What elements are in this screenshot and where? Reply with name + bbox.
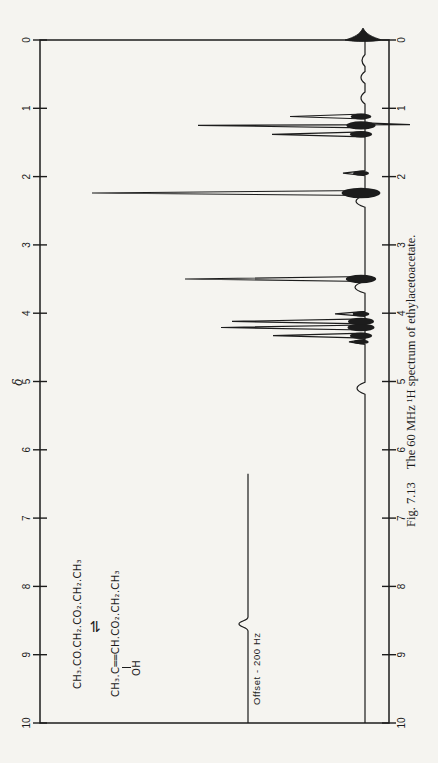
figure-caption: Fig. 7.13The 60 MHz ¹H spectrum of ethyl…	[404, 235, 419, 527]
nmr-spectrum-plot: 001122334455667788991010	[0, 0, 438, 763]
peak-base-blob	[351, 114, 372, 120]
figure-caption-number: Fig. 7.13	[404, 482, 418, 527]
page-background: 001122334455667788991010 δ CH₃.CO.CH₂.CO…	[0, 0, 438, 763]
delta-axis-symbol: δ	[11, 373, 25, 391]
top-axis-tick-label: 3	[21, 242, 32, 248]
top-axis-tick-label: 0	[21, 37, 32, 43]
peak-base-blob	[348, 318, 374, 325]
bottom-axis-tick-label: 9	[396, 651, 407, 657]
enol-formula-left: CH₃.C	[110, 667, 121, 697]
enol-oh-bond	[122, 667, 131, 668]
offset-annotation: Offset - 200 Hz	[251, 632, 262, 705]
bottom-axis-tick-label: 1	[396, 105, 407, 111]
peak-base-blob	[350, 333, 372, 339]
top-axis-tick-label: 10	[21, 717, 32, 729]
bottom-axis-tick-label: 2	[396, 173, 407, 179]
peak-base-blob	[346, 275, 376, 283]
tms-peak	[345, 28, 382, 42]
enol-oh-label: OH	[131, 660, 142, 676]
peak-base-blob	[342, 188, 381, 198]
top-axis-tick-label: 2	[21, 173, 32, 179]
peak-base-blob	[350, 131, 372, 137]
keto-formula: CH₃.CO.CH₂.CO₂.CH₂.CH₃	[72, 559, 83, 689]
enol-formula-right: CH.CO₂.CH₂.CH₃	[110, 570, 121, 654]
structure-annotation: CH₃.CO.CH₂.CO₂.CH₂.CH₃ ⇌ CH₃.C══CH.CO₂.C…	[70, 527, 155, 697]
bottom-axis-tick-label: 10	[396, 717, 407, 729]
figure-caption-text: The 60 MHz ¹H spectrum of ethylacetoacet…	[404, 235, 418, 470]
peak-base-blob	[353, 171, 369, 176]
peak-base-blob	[353, 311, 370, 316]
top-axis-tick-label: 6	[21, 447, 32, 453]
offset-trace	[239, 474, 248, 723]
enol-double-bond: ══	[110, 654, 121, 667]
rotated-figure: 001122334455667788991010 δ CH₃.CO.CH₂.CO…	[0, 0, 438, 763]
peak-base-blob	[346, 121, 375, 129]
bottom-axis-tick-label: 8	[396, 583, 407, 589]
top-axis-tick-label: 7	[21, 515, 32, 521]
top-axis-tick-label: 1	[21, 105, 32, 111]
top-axis-tick-label: 8	[21, 583, 32, 589]
peak-base-blob	[353, 340, 368, 345]
equilibrium-arrows-icon: ⇌	[88, 620, 102, 633]
top-axis-tick-label: 4	[21, 310, 32, 316]
top-axis-tick-label: 9	[21, 651, 32, 657]
bottom-axis-tick-label: 0	[396, 37, 407, 43]
enol-formula: CH₃.C══CH.CO₂.CH₂.CH₃	[110, 570, 121, 697]
